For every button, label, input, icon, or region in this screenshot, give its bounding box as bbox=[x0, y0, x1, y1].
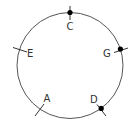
point-d: D bbox=[90, 94, 106, 116]
point-c: C bbox=[67, 6, 74, 32]
label-a: A bbox=[44, 93, 51, 104]
dot-g bbox=[118, 47, 123, 52]
label-d: D bbox=[90, 94, 98, 105]
dot-d bbox=[99, 106, 104, 111]
dot-c bbox=[67, 10, 72, 15]
circle-diagram: C G D A E bbox=[0, 0, 135, 127]
label-c: C bbox=[67, 21, 74, 32]
label-g: G bbox=[103, 48, 111, 59]
point-a: A bbox=[35, 93, 51, 116]
label-e: E bbox=[27, 48, 33, 59]
point-g: G bbox=[103, 47, 128, 60]
point-e: E bbox=[13, 48, 33, 60]
